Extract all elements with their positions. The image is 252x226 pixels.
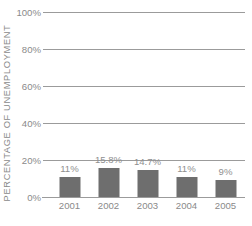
x-label-2005: 2005: [206, 200, 245, 211]
bar-slot-2004: 11%: [167, 12, 206, 197]
bar-2002: [98, 168, 119, 197]
x-axis-labels: 2001 2002 2003 2004 2005: [50, 200, 245, 216]
y-tick-label-40: 40%: [22, 118, 41, 129]
tick-stub-20: [43, 160, 50, 161]
plot-area: 100% 80% 60% 40% 20% 0%: [50, 12, 245, 197]
tick-stub-100: [43, 12, 50, 13]
bar-slot-2001: 11%: [50, 12, 89, 197]
x-label-2004: 2004: [167, 200, 206, 211]
bar-2003: [137, 170, 158, 197]
y-tick-label-60: 60%: [22, 81, 41, 92]
bar-2004: [176, 177, 197, 197]
bar-value-label-2002: 15.8%: [95, 154, 122, 165]
tick-stub-80: [43, 49, 50, 50]
x-label-2001: 2001: [50, 200, 89, 211]
bar-slot-2003: 14.7%: [128, 12, 167, 197]
y-tick-label-80: 80%: [22, 44, 41, 55]
x-axis-baseline: [42, 197, 245, 198]
bar-value-label-2001: 11%: [60, 163, 79, 174]
unemployment-bar-chart: PERCENTAGE OF UNEMPLOYMENT 100% 80% 60% …: [0, 0, 252, 226]
y-tick-label-100: 100%: [16, 7, 41, 18]
bar-2005: [215, 180, 236, 197]
y-tick-label-20: 20%: [22, 155, 41, 166]
y-tick-label-0: 0%: [27, 192, 41, 203]
bar-series: 11% 15.8% 14.7% 11% 9%: [50, 12, 245, 197]
bar-2001: [59, 177, 80, 197]
bar-value-label-2003: 14.7%: [134, 156, 161, 167]
x-label-2002: 2002: [89, 200, 128, 211]
bar-value-label-2005: 9%: [219, 166, 233, 177]
x-label-2003: 2003: [128, 200, 167, 211]
bar-slot-2005: 9%: [206, 12, 245, 197]
bar-slot-2002: 15.8%: [89, 12, 128, 197]
bar-value-label-2004: 11%: [177, 163, 196, 174]
tick-stub-40: [43, 123, 50, 124]
tick-stub-60: [43, 86, 50, 87]
y-axis-title: PERCENTAGE OF UNEMPLOYMENT: [0, 0, 14, 226]
